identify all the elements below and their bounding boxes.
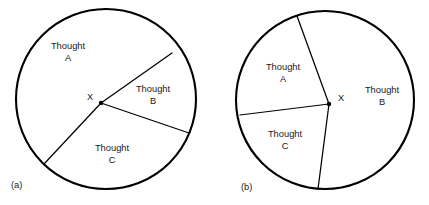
sector-label-thought-a-line2: A <box>65 53 72 63</box>
vertex-label-b: X <box>338 93 344 103</box>
sector-label-thought-b-line1: Thought <box>136 84 171 94</box>
vertex-point-b <box>327 102 331 106</box>
figure-container: X Thought A Thought B Thought C (a) X Th… <box>0 0 429 205</box>
sector-diagram-svg: X Thought A Thought B Thought C (a) X Th… <box>0 0 429 205</box>
panel-caption-b: (b) <box>241 182 252 192</box>
sector-label-thought-b-line1-b: Thought <box>365 85 400 95</box>
sector-label-thought-b-line2-b: B <box>379 97 385 107</box>
sector-label-thought-b-line2: B <box>150 96 156 106</box>
sector-label-thought-c-line2: C <box>109 155 116 165</box>
sector-label-thought-a-line1-b: Thought <box>266 62 301 72</box>
panel-b: X Thought A Thought B Thought C (b) <box>236 11 414 192</box>
sector-label-thought-c-line1: Thought <box>95 143 130 153</box>
sector-label-thought-a-line1: Thought <box>51 41 86 51</box>
sector-label-thought-c-line1-b: Thought <box>268 129 303 139</box>
sector-label-thought-c-line2-b: C <box>282 141 289 151</box>
sector-label-thought-a-line2-b: A <box>280 74 287 84</box>
panel-a: X Thought A Thought B Thought C (a) <box>11 9 196 190</box>
vertex-point-a <box>99 101 103 105</box>
vertex-label-a: X <box>87 92 93 102</box>
circle-outline-b <box>236 11 414 189</box>
panel-caption-a: (a) <box>11 180 22 190</box>
